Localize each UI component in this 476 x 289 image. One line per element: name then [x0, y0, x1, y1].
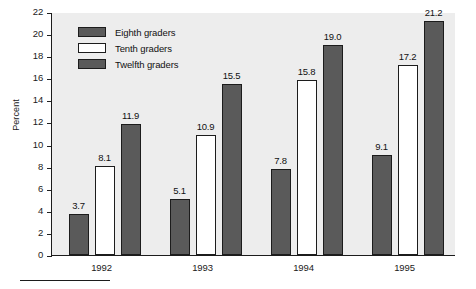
y-axis-tick-label: 8	[3, 161, 43, 172]
bar: 8.1	[95, 166, 115, 255]
bar-rect	[323, 45, 343, 255]
bar-rect	[398, 65, 418, 255]
bar-rect	[121, 124, 141, 255]
bar: 10.9	[196, 135, 216, 255]
y-axis-tick-mark	[47, 256, 52, 257]
legend-label: Tenth graders	[115, 43, 172, 54]
bar-rect	[170, 199, 190, 255]
legend-swatch	[78, 27, 106, 37]
y-axis-tick-label: 14	[3, 94, 43, 105]
bar-value-label: 17.2	[399, 51, 417, 62]
bar-rect	[196, 135, 216, 255]
bar-rect	[297, 80, 317, 255]
bar-value-label: 3.7	[72, 200, 85, 211]
legend-swatch	[78, 59, 106, 69]
x-axis-group-label: 1992	[51, 262, 152, 273]
bar: 21.2	[424, 21, 444, 255]
bar-value-label: 8.1	[98, 152, 111, 163]
legend-label: Eighth graders	[115, 27, 175, 38]
y-axis-tick-label: 22	[3, 6, 43, 17]
bar: 15.5	[222, 84, 242, 255]
legend-swatch-holder	[78, 59, 108, 70]
bar-value-label: 19.0	[324, 31, 342, 42]
legend-item: Twelfth graders	[78, 57, 178, 71]
bar: 7.8	[271, 169, 291, 255]
chart-legend: Eighth gradersTenth gradersTwelfth grade…	[78, 25, 178, 73]
bar-rect	[95, 166, 115, 255]
y-axis-tick-label: 10	[3, 139, 43, 150]
x-axis-group-label: 1993	[152, 262, 253, 273]
legend-item: Tenth graders	[78, 41, 178, 55]
bar: 11.9	[121, 124, 141, 255]
legend-item: Eighth graders	[78, 25, 178, 39]
legend-label: Twelfth graders	[115, 59, 178, 70]
bar-value-label: 10.9	[197, 121, 215, 132]
bar: 5.1	[170, 199, 190, 255]
bar-value-label: 15.8	[298, 66, 316, 77]
bar-value-label: 9.1	[375, 141, 388, 152]
bar-rect	[424, 21, 444, 255]
bar-rect	[271, 169, 291, 255]
bar: 19.0	[323, 45, 343, 255]
footnote-divider	[20, 280, 110, 281]
y-axis-tick-label: 6	[3, 183, 43, 194]
bar-value-label: 15.5	[223, 70, 241, 81]
bar: 15.8	[297, 80, 317, 255]
legend-swatch	[78, 43, 106, 53]
legend-swatch-holder	[78, 27, 108, 38]
y-axis-tick-label: 4	[3, 205, 43, 216]
bar-rect	[372, 155, 392, 256]
bar-value-label: 11.9	[122, 110, 139, 121]
x-axis-group-label: 1995	[354, 262, 455, 273]
bar-chart-figure: Percent 0246810121416182022 3.78.111.95.…	[0, 0, 476, 289]
y-axis-tick-label: 16	[3, 72, 43, 83]
bar-rect	[69, 214, 89, 255]
y-axis-tick-label: 12	[3, 116, 43, 127]
y-axis-tick-label: 20	[3, 28, 43, 39]
bar: 9.1	[372, 155, 392, 256]
bar-rect	[222, 84, 242, 255]
legend-swatch-holder	[78, 43, 108, 54]
bar-value-label: 21.2	[425, 7, 443, 18]
y-axis-tick-label: 18	[3, 50, 43, 61]
bar: 3.7	[69, 214, 89, 255]
bar-value-label: 7.8	[274, 155, 287, 166]
x-axis-group-label: 1994	[253, 262, 354, 273]
y-axis-tick-label: 2	[3, 227, 43, 238]
bar: 17.2	[398, 65, 418, 255]
y-axis-tick-label: 0	[3, 249, 43, 260]
bar-value-label: 5.1	[173, 185, 186, 196]
y-axis: 0246810121416182022	[0, 0, 52, 289]
